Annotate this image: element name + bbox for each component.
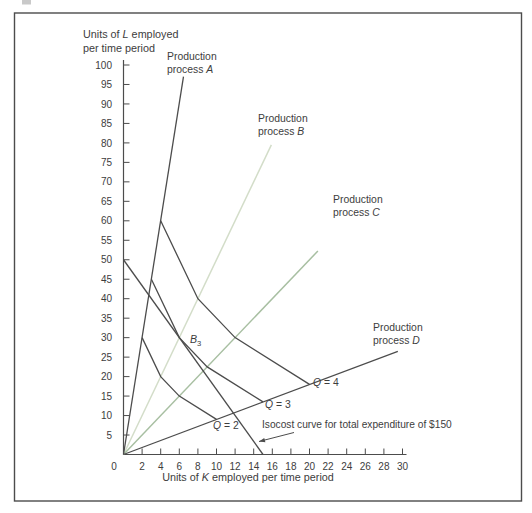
production-process-c-label-line2: process C	[333, 207, 380, 218]
isoquant-q4-label: Q = 4	[313, 377, 339, 388]
l-tick-label: 20	[101, 371, 113, 382]
k-tick-label: 2	[139, 461, 145, 472]
l-tick-label: 100	[95, 60, 112, 71]
production-process-a-label-line2: process A	[167, 64, 213, 75]
k-tick-label: 26	[360, 461, 372, 472]
k-tick-label: 24	[341, 461, 353, 472]
production-process-d-label-line2: process D	[373, 335, 420, 346]
production-process-b-label-line2: process B	[258, 126, 304, 137]
production-process-a-label-line1: Production	[167, 51, 217, 62]
l-tick-label: 50	[101, 254, 113, 265]
l-tick-label: 80	[101, 138, 113, 149]
production-processes-isoquant-chart: 0246810121416182022242628305101520253035…	[0, 0, 532, 513]
k-axis-title: Units of K employed per time period	[162, 471, 334, 483]
k-tick-label: 18	[285, 461, 297, 472]
production-process-c-label-line1: Production	[333, 194, 383, 205]
l-tick-label: 55	[101, 235, 113, 246]
isocost-arrow-head	[259, 438, 265, 442]
l-axis-title-line2: per time period	[83, 42, 155, 54]
l-tick-label: 85	[101, 118, 113, 129]
l-tick-label: 10	[101, 410, 113, 421]
production-process-d-label-line1: Production	[373, 322, 423, 333]
l-tick-label: 90	[101, 99, 113, 110]
optimum-point-b3-label: B3	[190, 333, 201, 348]
l-tick-label: 30	[101, 332, 113, 343]
l-tick-label: 60	[101, 215, 113, 226]
k-tick-label: 4	[158, 461, 164, 472]
isoquant-q4	[161, 221, 310, 385]
k-tick-label: 6	[177, 461, 183, 472]
isocost-label: Isocost curve for total expenditure of $…	[262, 419, 452, 430]
k-tick-label: 12	[230, 461, 242, 472]
l-tick-label: 25	[101, 352, 113, 363]
l-tick-label: 95	[101, 79, 113, 90]
k-tick-label: 22	[323, 461, 335, 472]
l-tick-label: 5	[106, 430, 112, 441]
isoquant-q2	[142, 338, 216, 420]
scan-artifact	[22, 0, 31, 5]
k-tick-label: 30	[397, 461, 409, 472]
production-process-b-label-line1: Production	[258, 113, 308, 124]
figure-canvas: 0246810121416182022242628305101520253035…	[0, 0, 532, 513]
isoquant-q3-label: Q = 3	[265, 399, 291, 410]
isoquant-q2-label: Q = 2	[213, 420, 239, 431]
l-tick-label: 70	[101, 176, 113, 187]
l-tick-label: 65	[101, 196, 113, 207]
l-axis-title-line1: Units of L employed	[83, 28, 178, 40]
k-tick-label: 8	[195, 461, 201, 472]
k-tick-label: 20	[304, 461, 316, 472]
l-tick-label: 35	[101, 313, 113, 324]
k-tick-label: 0	[111, 461, 117, 472]
l-tick-label: 75	[101, 157, 113, 168]
production-process-a-ray	[124, 77, 184, 455]
l-tick-label: 40	[101, 293, 113, 304]
l-tick-label: 15	[101, 391, 113, 402]
k-tick-label: 28	[378, 461, 390, 472]
k-tick-label: 16	[267, 461, 279, 472]
l-tick-label: 45	[101, 274, 113, 285]
k-tick-label: 10	[211, 461, 223, 472]
k-tick-label: 14	[248, 461, 260, 472]
